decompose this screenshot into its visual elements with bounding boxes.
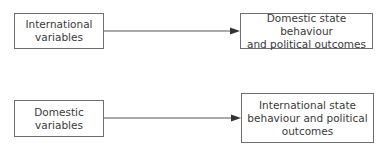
arrow-international-to-domestic bbox=[104, 28, 240, 35]
arrow-domestic-to-international bbox=[104, 115, 241, 122]
arrows-layer bbox=[0, 0, 386, 150]
